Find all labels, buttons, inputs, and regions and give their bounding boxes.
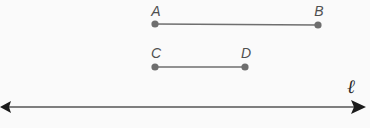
segment-ab-line [155, 24, 318, 25]
point-c-dot [151, 63, 158, 70]
line-l: ℓ [0, 76, 366, 114]
point-d-dot [241, 63, 248, 70]
point-a-dot [151, 20, 158, 27]
segment-cd: C D [151, 45, 251, 71]
line-l-label: ℓ [347, 76, 355, 97]
point-b-label: B [314, 3, 323, 19]
segment-ab: A B [150, 3, 323, 29]
geometry-figure: A B C D ℓ [0, 0, 370, 128]
point-c-label: C [151, 45, 162, 61]
point-a-label: A [150, 3, 160, 19]
point-d-label: D [241, 45, 251, 61]
figure-canvas: A B C D ℓ [0, 0, 370, 128]
point-b-dot [314, 21, 321, 28]
